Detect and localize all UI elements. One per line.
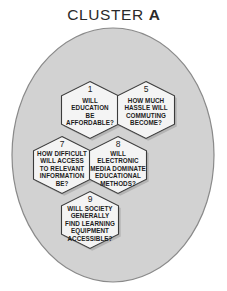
cluster-diagram: CLUSTER A 1WILLEDUCATIONBEAFFORDABLE?5HO… <box>0 0 227 291</box>
cluster-canvas <box>0 0 227 291</box>
